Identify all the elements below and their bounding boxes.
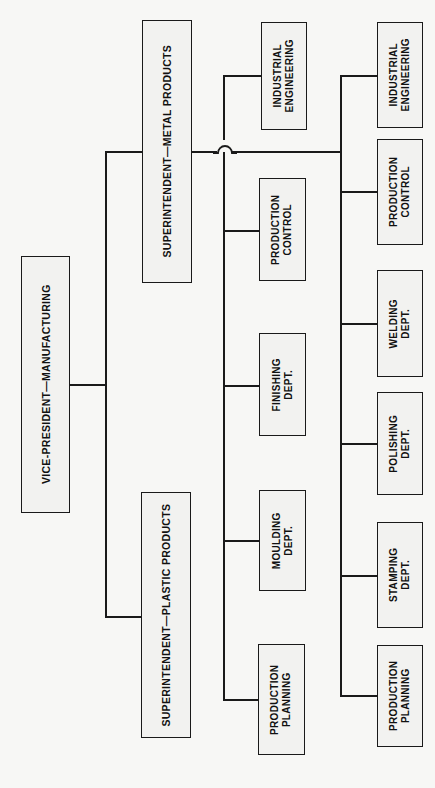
node-label: VICE-PRESIDENT—MANUFACTURING [39, 285, 51, 485]
node-l4-stamping-dept[interactable]: STAMPING DEPT. [377, 522, 423, 628]
connector-to-l4-welding-dept [340, 323, 378, 325]
node-superintendent-plastic-products[interactable]: SUPERINTENDENT—PLASTIC PRODUCTS [141, 492, 191, 738]
node-l4-production-planning[interactable]: PRODUCTION PLANNING [377, 645, 423, 747]
node-label-line1: WELDING [388, 299, 399, 348]
node-label-line2: ENGINEERING [284, 39, 295, 112]
connector-to-l3-finishing-dept [223, 385, 260, 387]
node-label: SUPERINTENDENT—METAL PRODUCTS [161, 45, 173, 258]
connector-level2-trunk [105, 151, 107, 618]
node-label: FINISHING DEPT. [271, 358, 295, 411]
connector-to-l4-stamping-dept [340, 575, 378, 577]
node-superintendent-metal-products[interactable]: SUPERINTENDENT—METAL PRODUCTS [142, 20, 192, 283]
node-label-line1: POLISHING [388, 415, 399, 473]
connector-metal-to-level4-right [231, 151, 341, 153]
node-label-line1: PRODUCTION [388, 157, 399, 227]
node-label-line1: STAMPING [388, 548, 399, 602]
node-l3-finishing-dept[interactable]: FINISHING DEPT. [259, 333, 306, 436]
connector-to-supt-plastic [105, 616, 142, 618]
node-label-line2: CONTROL [400, 166, 411, 218]
connector-to-l3-moulding-dept [223, 540, 260, 542]
node-label-line1: MOULDING [271, 512, 282, 569]
node-vice-president-manufacturing[interactable]: VICE-PRESIDENT—MANUFACTURING [21, 256, 70, 513]
node-l3-production-planning[interactable]: PRODUCTION PLANNING [258, 644, 305, 755]
connector-to-l4-polishing-dept [340, 443, 378, 445]
connector-to-l4-industrial-engineering [340, 75, 378, 77]
node-label-line2: DEPT. [400, 309, 411, 339]
node-l3-moulding-dept[interactable]: MOULDING DEPT. [259, 490, 306, 591]
node-label-line2: ENGINEERING [400, 38, 411, 111]
line-crossover-hop-icon [212, 137, 238, 155]
node-label-line1: FINISHING [271, 358, 282, 411]
node-label-line1: INDUSTRIAL [272, 44, 283, 108]
node-l3-production-control[interactable]: PRODUCTION CONTROL [259, 178, 306, 281]
node-label-line2: DEPT. [400, 429, 411, 459]
connector-level3-trunk [223, 75, 225, 700]
node-label-line2: DEPT. [400, 560, 411, 590]
node-label: SUPERINTENDENT—PLASTIC PRODUCTS [160, 504, 172, 727]
org-chart: VICE-PRESIDENT—MANUFACTURING SUPERINTEND… [0, 0, 435, 788]
node-l3-industrial-engineering[interactable]: INDUSTRIAL ENGINEERING [261, 22, 307, 130]
node-label: STAMPING DEPT. [388, 548, 412, 602]
connector-level4-trunk [340, 75, 342, 696]
node-l4-welding-dept[interactable]: WELDING DEPT. [377, 270, 423, 377]
node-l4-production-control[interactable]: PRODUCTION CONTROL [377, 139, 423, 245]
node-label: PRODUCTION PLANNING [270, 664, 294, 734]
node-label-line1: PRODUCTION [388, 661, 399, 731]
connector-to-l3-industrial-engineering [223, 75, 262, 77]
node-label-line2: PLANNING [400, 669, 411, 724]
node-label: INDUSTRIAL ENGINEERING [272, 39, 296, 112]
connector-to-l3-production-control [223, 230, 260, 232]
connector-to-supt-metal [105, 151, 143, 153]
node-l4-polishing-dept[interactable]: POLISHING DEPT. [377, 392, 423, 495]
node-label: WELDING DEPT. [388, 299, 412, 348]
node-label-line2: CONTROL [283, 204, 294, 256]
node-label: INDUSTRIAL ENGINEERING [388, 38, 412, 111]
node-label-line2: DEPT. [283, 526, 294, 556]
node-label: POLISHING DEPT. [388, 415, 412, 473]
node-label-line1: PRODUCTION [270, 664, 281, 734]
node-label: PRODUCTION CONTROL [388, 157, 412, 227]
node-label-line1: PRODUCTION [271, 194, 282, 264]
node-label-line2: DEPT. [283, 370, 294, 400]
node-label: PRODUCTION PLANNING [388, 661, 412, 731]
node-label-line1: INDUSTRIAL [388, 43, 399, 107]
connector-vp-stub [70, 384, 107, 386]
node-label: PRODUCTION CONTROL [271, 194, 295, 264]
connector-to-l3-production-planning [223, 699, 259, 701]
node-l4-industrial-engineering[interactable]: INDUSTRIAL ENGINEERING [377, 22, 423, 128]
connector-to-l4-production-planning [340, 695, 378, 697]
connector-to-l4-production-control [340, 191, 378, 193]
node-label: MOULDING DEPT. [271, 512, 295, 569]
node-label-line2: PLANNING [282, 672, 293, 727]
